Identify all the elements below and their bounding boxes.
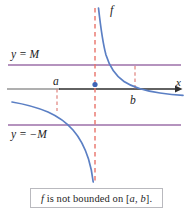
- function-curve-label: f: [110, 4, 113, 16]
- caption-text: f is not bounded on [a, b].: [41, 193, 152, 204]
- axis-point-marker: [92, 82, 97, 87]
- x-axis-label: x: [176, 77, 181, 88]
- lower-bound-label: y = −M: [11, 129, 47, 141]
- left-endpoint-label: a: [53, 76, 59, 88]
- caption-box: f is not bounded on [a, b].: [30, 188, 163, 208]
- function-curve-left-branch: [12, 102, 93, 182]
- caption-closing: ].: [146, 193, 152, 204]
- figure-container: y = M y = −M f a b x f is not bounded on…: [0, 0, 191, 214]
- function-graph-svg: [0, 0, 191, 214]
- caption-middle-text: is not bounded on [: [44, 193, 130, 204]
- upper-bound-label: y = M: [11, 49, 39, 61]
- function-curve-right-branch: [99, 8, 184, 95]
- right-endpoint-label: b: [130, 95, 136, 107]
